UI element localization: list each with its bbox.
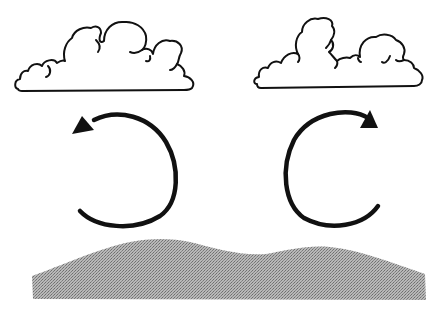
cloud-left xyxy=(15,22,193,91)
arrowhead-left xyxy=(72,116,94,134)
arrow-right-clockwise xyxy=(286,110,378,226)
diagram-canvas xyxy=(0,0,448,312)
arrowhead-right xyxy=(360,110,378,128)
arrow-left-counterclockwise xyxy=(72,115,176,227)
ground-terrain xyxy=(32,239,426,300)
cloud-right xyxy=(254,18,422,88)
